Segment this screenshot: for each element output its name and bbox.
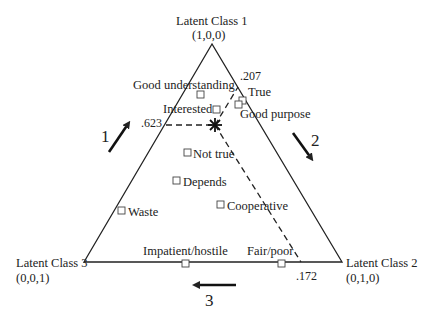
point-label-cooperative: Cooperative: [227, 199, 288, 213]
arrow-1-label: 1: [101, 128, 110, 146]
point-marker-good-understanding: [197, 91, 204, 98]
point-label-interested: Interested: [163, 102, 212, 116]
reference-value-class1: .623: [141, 117, 162, 130]
point-marker-not-true: [184, 149, 191, 156]
reference-value-class2: .207: [240, 70, 261, 83]
point-label-impatient-hostile: Impatient/hostile: [143, 244, 228, 258]
point-marker-waste: [118, 207, 125, 214]
point-label-depends: Depends: [183, 175, 227, 189]
point-marker-fair-poor: [278, 260, 285, 267]
vertex-class3-label: Latent Class 3: [16, 256, 88, 270]
vertex-class3-coords: (0,0,1): [16, 271, 49, 285]
point-marker-depends: [173, 177, 180, 184]
point-marker-impatient-hostile: [182, 260, 189, 267]
vertex-class1-coords: (1,0,0): [192, 28, 225, 42]
reference-line-class3: [215, 125, 301, 262]
point-label-fair-poor: Fair/poor: [247, 244, 294, 258]
arrow-1-icon: [109, 124, 128, 152]
point-marker-interested: [213, 106, 220, 113]
point-label-true: True: [248, 85, 271, 99]
reference-star-icon: [208, 118, 222, 132]
arrow-2-icon: [293, 133, 311, 158]
point-label-good-understanding: Good understanding: [133, 78, 235, 92]
point-label-waste: Waste: [128, 205, 158, 219]
point-marker-cooperative: [217, 201, 224, 208]
point-label-good-purpose: Good purpose: [240, 107, 310, 121]
arrow-3-label: 3: [205, 292, 214, 310]
vertex-class2-coords: (0,1,0): [346, 271, 379, 285]
arrow-2-label: 2: [311, 132, 320, 150]
vertex-class2-label: Latent Class 2: [346, 256, 418, 270]
vertex-class1-label: Latent Class 1: [176, 14, 248, 28]
reference-value-class3: .172: [296, 270, 317, 283]
point-label-not-true: Not true: [193, 147, 234, 161]
